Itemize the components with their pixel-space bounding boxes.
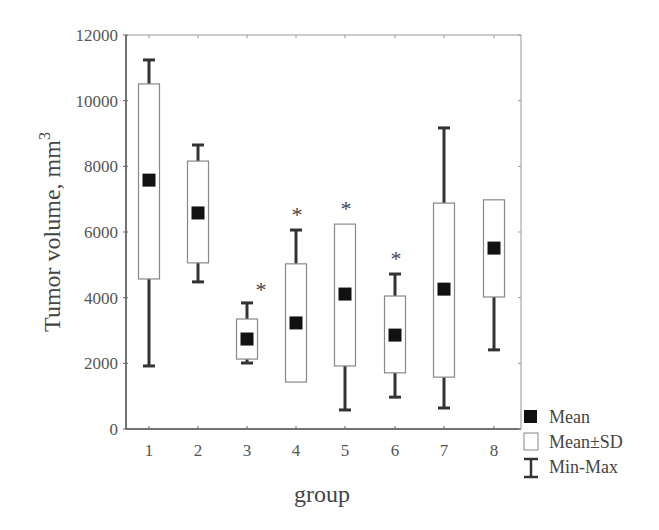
x-axis-title: group	[294, 481, 350, 507]
legend-mean-label: Mean	[549, 407, 590, 427]
legend-minmax-label: Min-Max	[549, 457, 618, 477]
mean-marker	[488, 242, 501, 255]
group-2-box	[188, 145, 209, 282]
group-7-box	[434, 128, 455, 408]
group-4-box: *	[286, 202, 307, 382]
group-8-box	[484, 200, 505, 350]
legend-whisker-icon	[524, 459, 538, 477]
x-tick-label: 2	[194, 441, 203, 460]
group-5-box: *	[335, 196, 356, 410]
y-tick-label: 2000	[84, 354, 118, 373]
significance-star: *	[292, 202, 303, 227]
x-tick-label: 6	[391, 441, 400, 460]
mean-marker	[339, 288, 352, 301]
x-tick-label: 4	[292, 441, 301, 460]
legend-sd-label: Mean±SD	[549, 432, 623, 452]
plot-frame	[126, 35, 521, 429]
legend-sd-box-icon	[524, 433, 538, 450]
mean-marker	[143, 174, 156, 187]
mean-marker	[389, 329, 402, 342]
y-tick-label: 0	[110, 420, 119, 439]
significance-star: *	[391, 246, 402, 271]
legend: Mean Mean±SD Min-Max	[524, 407, 623, 477]
x-tick-label: 8	[490, 441, 499, 460]
x-tick-label: 7	[440, 441, 449, 460]
mean-marker	[438, 283, 451, 296]
significance-star: *	[256, 277, 267, 302]
legend-mean-icon	[524, 410, 537, 423]
y-tick-label: 10000	[76, 92, 119, 111]
group-1-box	[139, 60, 160, 366]
x-tick-label: 1	[145, 441, 154, 460]
x-tick-label: 5	[341, 441, 350, 460]
box-series: ****	[139, 60, 505, 410]
mean-marker	[290, 316, 303, 329]
mean-marker	[192, 206, 205, 219]
y-tick-label: 8000	[84, 157, 118, 176]
group-6-box: *	[385, 246, 406, 397]
x-tick-label: 3	[243, 441, 252, 460]
y-axis-title: Tumor volume, mm3	[36, 132, 65, 332]
significance-star: *	[341, 196, 352, 221]
mean-marker	[241, 333, 254, 346]
y-tick-label: 6000	[84, 223, 118, 242]
group-3-box: *	[237, 277, 267, 363]
box-plot-chart: 020004000600080001000012000 12345678 ***…	[0, 0, 659, 530]
y-tick-label: 12000	[76, 26, 119, 45]
y-tick-label: 4000	[84, 289, 118, 308]
